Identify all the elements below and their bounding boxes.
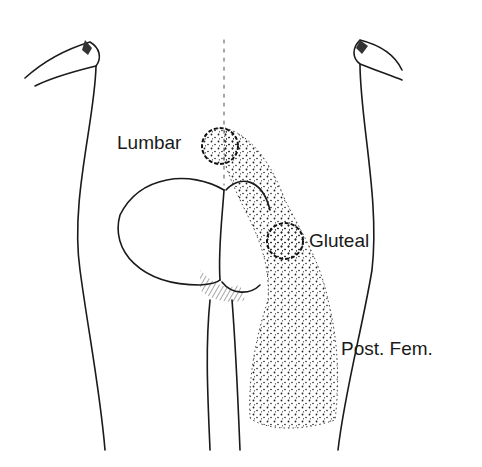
gluteal-zone-marker bbox=[267, 223, 303, 259]
anatomical-illustration: Lumbar Gluteal Post. Fem. bbox=[0, 0, 482, 467]
lumbar-zone-marker bbox=[202, 128, 238, 164]
lumbar-label: Lumbar bbox=[117, 132, 181, 154]
body-outline-drawing bbox=[0, 0, 482, 467]
gluteal-label: Gluteal bbox=[309, 230, 369, 252]
pain-referral-zone bbox=[224, 128, 338, 428]
posterior-femoral-label: Post. Fem. bbox=[341, 338, 433, 360]
